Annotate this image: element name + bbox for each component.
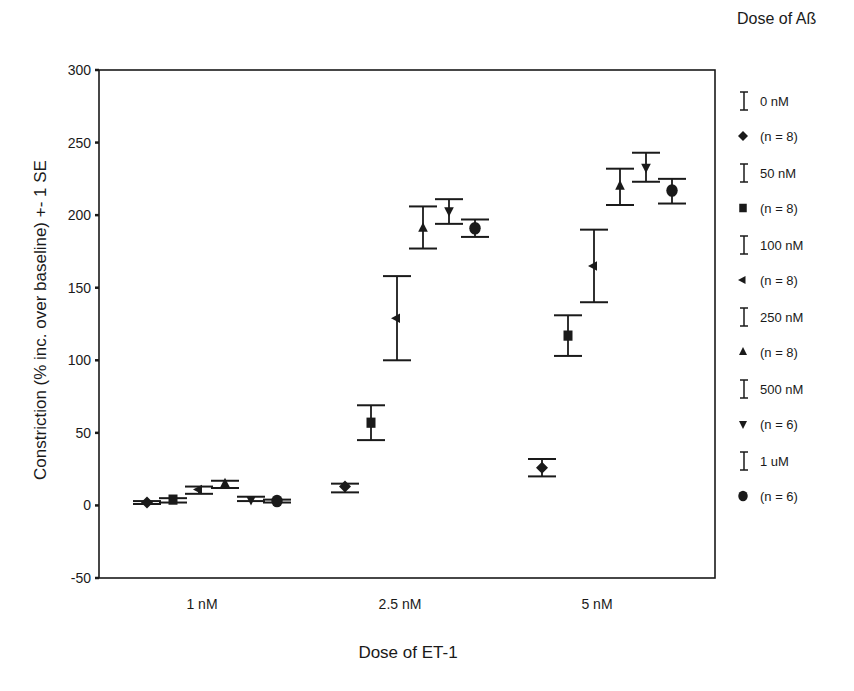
x-tick-label: 5 nM: [581, 596, 612, 612]
y-tick-label: 200: [68, 207, 92, 223]
circle-marker: [271, 495, 282, 508]
legend-n-label: (n = 6): [760, 489, 798, 504]
series-100-nm: [185, 230, 608, 495]
series-500-nm: [237, 153, 660, 506]
y-axis-title: Constriction (% inc. over baseline) +- 1…: [31, 160, 50, 480]
legend-n-label: (n = 8): [760, 129, 798, 144]
plot-frame: [99, 70, 715, 578]
y-tick-label: 300: [68, 62, 92, 78]
legend-item: 250 nM(n = 8): [739, 308, 803, 360]
triangle-left-marker: [391, 313, 400, 323]
diamond-marker: [339, 481, 351, 493]
plot-border: [99, 70, 715, 578]
legend-n-label: (n = 6): [760, 417, 798, 432]
y-tick-label: 150: [68, 280, 92, 296]
legend-item: 500 nM(n = 6): [739, 380, 803, 432]
legend-label: 1 uM: [760, 454, 789, 469]
triangle-down-marker: [641, 164, 651, 174]
x-tick-label: 1 nM: [186, 596, 217, 612]
legend: 0 nM(n = 8)50 nM(n = 8)100 nM(n = 8)250 …: [738, 92, 803, 504]
square-marker: [367, 418, 376, 428]
series-250-nm: [211, 169, 634, 488]
triangle-down-marker: [739, 421, 747, 429]
legend-n-label: (n = 8): [760, 201, 798, 216]
diamond-marker: [738, 131, 748, 141]
legend-label: 0 nM: [760, 94, 789, 109]
y-tick-label: 50: [75, 425, 91, 441]
data-series: [133, 153, 686, 509]
square-marker: [564, 331, 573, 341]
series-50-nm: [159, 315, 582, 504]
x-tick-label: 2.5 nM: [379, 596, 422, 612]
legend-item: 100 nM(n = 8): [738, 236, 803, 288]
diamond-marker: [141, 497, 153, 509]
circle-marker: [738, 491, 748, 502]
x-axis-title: Dose of ET-1: [358, 643, 457, 662]
triangle-left-marker: [738, 276, 746, 284]
legend-n-label: (n = 8): [760, 273, 798, 288]
circle-marker: [469, 222, 480, 235]
chart: -50050100150200250300 1 nM2.5 nM5 nM Con…: [0, 0, 854, 691]
diamond-marker: [536, 462, 548, 474]
y-tick-label: 250: [68, 135, 92, 151]
legend-label: 100 nM: [760, 238, 803, 253]
triangle-down-marker: [444, 207, 454, 217]
y-tick-label: 100: [68, 352, 92, 368]
y-tick-label: 0: [83, 497, 91, 513]
legend-label: 500 nM: [760, 382, 803, 397]
square-marker: [739, 204, 747, 213]
legend-n-label: (n = 8): [760, 345, 798, 360]
legend-label: 250 nM: [760, 310, 803, 325]
triangle-up-marker: [418, 222, 428, 232]
legend-title: Dose of Aß: [737, 10, 816, 27]
series-1-um: [263, 179, 686, 508]
legend-item: 1 uM(n = 6): [738, 452, 798, 504]
legend-item: 50 nM(n = 8): [739, 164, 798, 216]
series-0-nm: [133, 459, 556, 509]
triangle-up-marker: [739, 347, 747, 355]
triangle-up-marker: [615, 180, 625, 190]
x-axis: 1 nM2.5 nM5 nM: [186, 596, 612, 612]
triangle-left-marker: [588, 261, 597, 271]
square-marker: [169, 495, 178, 505]
y-tick-label: -50: [71, 570, 91, 586]
legend-item: 0 nM(n = 8): [738, 92, 798, 144]
circle-marker: [666, 184, 677, 197]
triangle-up-marker: [220, 478, 230, 488]
legend-label: 50 nM: [760, 166, 796, 181]
y-axis: -50050100150200250300: [68, 62, 99, 586]
